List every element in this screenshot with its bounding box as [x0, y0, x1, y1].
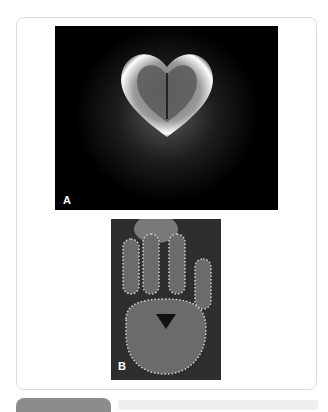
hand-print-image — [111, 219, 221, 380]
heart-leaf-image — [112, 37, 222, 147]
figure-panel-a: A — [55, 26, 278, 210]
bottom-bar — [118, 400, 318, 410]
bottom-tab[interactable] — [16, 398, 111, 412]
figure-panel-b: B — [111, 219, 221, 380]
panel-label-b: B — [118, 360, 126, 372]
panel-label-a: A — [63, 194, 71, 206]
